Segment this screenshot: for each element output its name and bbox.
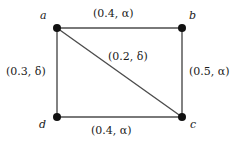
vertex-label-c: c [190, 119, 196, 130]
edge-label-d-c: (0.4, α) [91, 125, 132, 136]
edge-lines [57, 28, 182, 117]
vertex-d-dot [53, 113, 61, 121]
edge-label-b-c: (0.5, α) [189, 66, 230, 77]
vertex-c-dot [178, 113, 186, 121]
vertex-b-dot [178, 24, 186, 32]
graph-diagram: a b c d (0.4, α) (0.3, δ) (0.5, α) (0.4,… [0, 0, 243, 146]
edge-label-a-b: (0.4, α) [93, 8, 134, 19]
edge-label-a-d: (0.3, δ) [6, 66, 46, 77]
edge-a-c [57, 28, 182, 117]
vertex-label-a: a [40, 10, 47, 21]
vertex-label-b: b [189, 10, 196, 21]
edge-label-a-c: (0.2, δ) [108, 51, 148, 62]
vertex-a-dot [53, 24, 61, 32]
vertex-label-d: d [39, 119, 46, 130]
